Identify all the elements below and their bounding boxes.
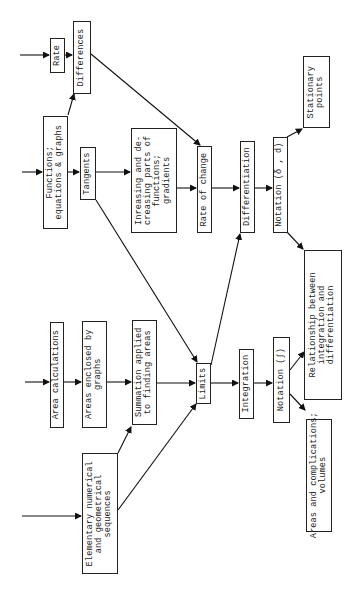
node-area-calculations: Area calculations [50, 322, 64, 428]
node-limits-label: Limits [199, 368, 208, 400]
node-stationary-points-label: Stationary points [307, 66, 325, 119]
node-increasing-label: Inreasing and de- creasing parts of func… [136, 136, 173, 225]
node-areas-complications: Areas and complications; volumes [306, 419, 332, 532]
node-summation: Summation applied to finding areas [132, 320, 157, 425]
node-rate-of-change-label: Rate of change [200, 153, 209, 227]
node-differentiation: Differentiation [240, 141, 255, 233]
node-elementary-sequences: Elementary numerical and geometrical seq… [82, 453, 118, 574]
arrow-functions-differences [68, 94, 74, 115]
arrow-elementary-limits [118, 404, 196, 510]
node-notation-diff: Notation (δ , d) [273, 137, 288, 233]
node-integration: Integration [239, 349, 254, 419]
node-increasing: Inreasing and de- creasing parts of func… [131, 128, 177, 233]
arrow-notation-int-areas-complications [290, 394, 305, 410]
node-differences-label: Differences [77, 29, 86, 87]
node-notation-int: Notation (∫) [273, 337, 290, 423]
node-rate: Rate [50, 38, 65, 73]
node-differences: Differences [73, 21, 91, 94]
node-rate-label: Rate [53, 45, 62, 66]
node-areas-enclosed-label: Areas enclosed by graphs [85, 330, 103, 419]
arrow-notation-stationary [287, 129, 302, 137]
arrow-elementary-summation [118, 427, 131, 453]
node-area-calculations-label: Area calculations [52, 330, 61, 419]
node-notation-diff-label: Notation (δ , d) [276, 143, 285, 227]
node-areas-enclosed: Areas enclosed by graphs [82, 321, 107, 428]
node-functions-label: Functions; equations & graphs [46, 125, 64, 220]
node-tangents-label: Tangents [83, 152, 92, 194]
node-notation-int-label: Notation (∫) [277, 348, 286, 411]
arrow-limits-differentiation [211, 234, 240, 365]
node-differentiation-label: Differentiation [243, 148, 252, 227]
node-stationary-points: Stationary points [303, 56, 330, 128]
arrow-notation-int-relationship [290, 352, 304, 370]
node-relationship: Relationship between integration and dif… [304, 250, 342, 400]
node-tangents: Tangents [80, 147, 96, 200]
node-integration-label: Integration [242, 355, 251, 413]
node-areas-complications-label: Areas and complications; volumes [310, 412, 328, 538]
node-elementary-sequences-label: Elementary numerical and geometrical seq… [86, 461, 114, 566]
node-functions: Functions; equations & graphs [43, 116, 68, 229]
node-relationship-label: Relationship between integration and dif… [309, 272, 337, 377]
node-limits: Limits [196, 363, 211, 404]
node-rate-of-change: Rate of change [197, 146, 212, 233]
arrow-notation-relationship [287, 232, 303, 249]
node-summation-label: Summation applied to finding areas [135, 328, 153, 417]
